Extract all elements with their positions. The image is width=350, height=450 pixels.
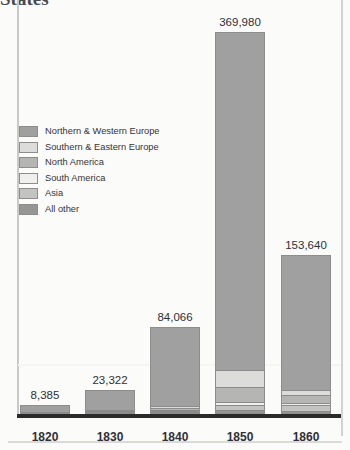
legend-item-northern-western-europe: Northern & Western Europe [19, 124, 194, 139]
x-tick-1840: 1840 [162, 430, 189, 444]
bar-segment-south-america [86, 413, 134, 414]
stacked-bar-1840[interactable] [150, 327, 200, 414]
stacked-bar-1820[interactable] [20, 405, 70, 414]
x-tick-1820: 1820 [32, 430, 59, 444]
legend-item-south-america: South America [19, 171, 194, 186]
legend-label-north-america: North America [45, 157, 104, 168]
chart-legend: Northern & Western Europe Southern & Eas… [19, 124, 194, 217]
bar-segment-all-other [151, 413, 199, 414]
x-axis-baseline [17, 414, 341, 418]
bar-segment-northern-western-europe [21, 406, 69, 413]
stacked-bar-1850[interactable] [215, 32, 265, 414]
chart-title: States [0, 0, 150, 10]
legend-swatch-all-other [19, 204, 38, 215]
bar-value-1850: 369,980 [219, 16, 261, 28]
stacked-bar-1860[interactable] [281, 255, 331, 414]
x-tick-1850: 1850 [227, 430, 254, 444]
bar-value-1830: 23,322 [92, 374, 127, 386]
legend-swatch-asia [19, 188, 38, 199]
plot-right-border [341, 0, 343, 436]
bar-segment-northern-western-europe [216, 33, 264, 371]
legend-item-north-america: North America [19, 155, 194, 170]
legend-label-northern-western-europe: Northern & Western Europe [45, 126, 160, 137]
bar-segment-all-other [216, 411, 264, 414]
legend-label-southern-eastern-europe: Southern & Eastern Europe [45, 142, 159, 153]
legend-swatch-north-america [19, 157, 38, 168]
bar-segment-northern-western-europe [151, 328, 199, 407]
legend-label-south-america: South America [45, 173, 105, 184]
legend-item-asia: Asia [19, 186, 194, 201]
bar-segment-northern-western-europe [282, 256, 330, 390]
bar-segment-northern-western-europe [86, 391, 134, 411]
x-tick-1860: 1860 [293, 430, 320, 444]
x-tick-1830: 1830 [97, 430, 124, 444]
legend-swatch-southern-eastern-europe [19, 142, 38, 153]
legend-item-southern-eastern-europe: Southern & Eastern Europe [19, 140, 194, 155]
bar-value-1860: 153,640 [285, 239, 327, 251]
legend-label-all-other: All other [45, 204, 79, 215]
legend-label-asia: Asia [45, 188, 63, 199]
legend-swatch-south-america [19, 173, 38, 184]
legend-item-all-other: All other [19, 202, 194, 217]
bar-segment-southern-eastern-europe [216, 371, 264, 389]
bar-value-1840: 84,066 [157, 311, 192, 323]
bar-segment-southern-eastern-europe [21, 413, 69, 414]
bar-segment-all-other [282, 412, 330, 414]
chart-figure: States Northern & Western Europe Souther… [0, 0, 350, 450]
legend-swatch-northern-western-europe [19, 126, 38, 137]
bar-segment-north-america [282, 396, 330, 404]
bar-segment-north-america [216, 388, 264, 402]
stacked-bar-1830[interactable] [85, 390, 135, 414]
bar-value-1820: 8,385 [31, 389, 60, 401]
